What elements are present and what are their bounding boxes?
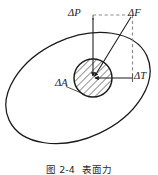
label-delta-t: ΔT (134, 71, 146, 82)
caption-number: 图 2-4 (46, 164, 75, 175)
figure-container: ΔP ΔF ΔT ΔA 图 2-4表面力 (0, 0, 158, 175)
surface-force-diagram (0, 0, 158, 175)
figure-caption: 图 2-4表面力 (0, 164, 158, 175)
label-delta-f: ΔF (128, 8, 141, 19)
caption-title: 表面力 (82, 164, 112, 175)
label-delta-a: ΔA (55, 78, 68, 89)
vector-delta-f (95, 17, 131, 76)
label-delta-p: ΔP (68, 8, 81, 19)
